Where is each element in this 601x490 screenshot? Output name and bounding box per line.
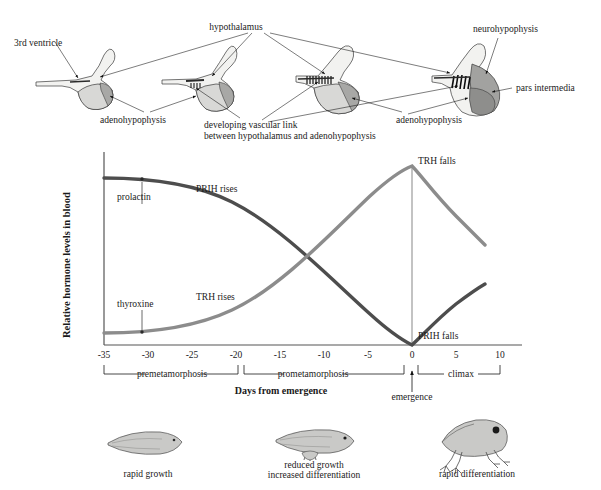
tadpole-limbs-icon xyxy=(276,430,354,461)
pituitary-stage-2 xyxy=(162,46,237,111)
stage-illustrations: rapid growth reduced growth increased di… xyxy=(108,420,515,480)
annotation-trh-falls: TRH falls xyxy=(418,156,456,166)
annotation-prolactin: prolactin xyxy=(117,192,151,202)
caption-froglet: rapid differentiation xyxy=(439,469,515,479)
caption-tadpole-limbs-1: reduced growth xyxy=(284,460,344,470)
top-cut-text xyxy=(0,0,601,10)
annotation-prih-falls: PRIH falls xyxy=(418,331,459,341)
annotation-thyroxine: thyroxine xyxy=(117,299,153,309)
hormone-chart: prolactin thyroxine PRIH rises TRH rises… xyxy=(61,152,522,402)
xtick-0: -35 xyxy=(98,350,111,360)
pituitary-series: hypothalamus 3rd ventricle neurohypophys… xyxy=(14,22,576,141)
figure-svg: hypothalamus 3rd ventricle neurohypophys… xyxy=(0,0,601,490)
xtick-9: 10 xyxy=(495,350,505,360)
label-neurohypophysis: neurohypophysis xyxy=(473,24,538,34)
bracket-label-climax: climax xyxy=(448,369,474,379)
bracket-label-prometamorphosis: prometamorphosis xyxy=(278,369,349,379)
xtick-5: -10 xyxy=(318,350,331,360)
label-third-ventricle: 3rd ventricle xyxy=(14,38,62,48)
label-adenohypophysis-left: adenohypophysis xyxy=(100,115,166,125)
caption-tadpole-early: rapid growth xyxy=(124,469,173,479)
chart-x-axis-label: Days from emergence xyxy=(235,385,328,396)
emergence-label: emergence xyxy=(392,392,433,402)
froglet-icon xyxy=(440,420,510,474)
chart-x-ticks: -35 -30 -25 -20 -15 -10 -5 0 5 10 xyxy=(98,350,505,360)
bottom-cut-text xyxy=(0,481,601,490)
label-vascular-link-line1: developing vascular link xyxy=(204,120,298,130)
xtick-7: 0 xyxy=(410,350,415,360)
label-hypothalamus: hypothalamus xyxy=(209,22,263,32)
pituitary-stage-3 xyxy=(296,46,359,114)
figure-root: hypothalamus 3rd ventricle neurohypophys… xyxy=(0,0,601,490)
marker-thyroxine xyxy=(140,330,143,333)
xtick-4: -15 xyxy=(274,350,287,360)
series-prolactin-curve xyxy=(104,178,485,345)
label-pars-intermedia: pars intermedia xyxy=(516,83,576,93)
annotation-prih-rises: PRIH rises xyxy=(196,184,238,194)
label-adenohypophysis-right: adenohypophysis xyxy=(396,115,462,125)
xtick-6: -5 xyxy=(364,350,372,360)
chart-y-axis-label: Relative hormone levels in blood xyxy=(61,192,72,338)
bracket-label-premetamorphosis: premetamorphosis xyxy=(137,369,207,379)
marker-prolactin xyxy=(140,177,143,180)
xtick-1: -30 xyxy=(142,350,155,360)
series-thyroxine-curve xyxy=(104,166,485,333)
pituitary-stage-1 xyxy=(36,49,115,109)
tadpole-early-icon xyxy=(108,432,182,455)
xtick-8: 5 xyxy=(454,350,459,360)
xtick-3: -20 xyxy=(230,350,243,360)
label-vascular-link-line2: between hypothalamus and adenohypophysis xyxy=(204,131,376,141)
annotation-trh-rises: TRH rises xyxy=(196,292,235,302)
caption-tadpole-limbs-2: increased differentiation xyxy=(268,470,361,480)
xtick-2: -25 xyxy=(186,350,199,360)
